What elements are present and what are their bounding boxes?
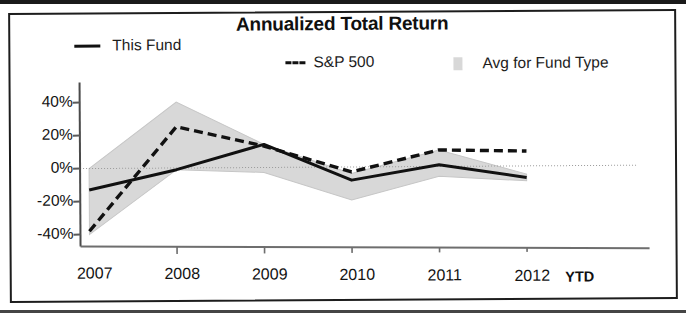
gray-square-swatch-icon bbox=[453, 57, 462, 70]
scan-artifact-bottom-rule bbox=[0, 310, 686, 313]
x-axis-tick-label: 2010 bbox=[339, 266, 375, 284]
x-axis-tick-label: 2007 bbox=[77, 265, 113, 283]
legend-label-this-fund: This Fund bbox=[112, 36, 181, 54]
solid-line-swatch-icon bbox=[74, 44, 100, 47]
x-axis-tick-labels: 200720082009201020112012YTD bbox=[10, 257, 678, 293]
scan-artifact-top-gap bbox=[0, 4, 686, 6]
x-axis-ytd-label: YTD bbox=[565, 268, 594, 284]
chart-plot-svg bbox=[8, 71, 677, 255]
x-axis-tick-label: 2009 bbox=[252, 265, 288, 283]
plot-area bbox=[8, 71, 677, 255]
x-axis-line bbox=[81, 243, 650, 251]
legend-item-avg-for-fund-type: Avg for Fund Type bbox=[453, 53, 608, 72]
dashed-line-swatch-icon bbox=[285, 61, 305, 64]
legend-item-this-fund: This Fund bbox=[74, 36, 181, 55]
legend-item-sp500: S&P 500 bbox=[285, 53, 374, 72]
y-axis-line bbox=[80, 83, 81, 247]
x-axis-tick-label: 2012 bbox=[514, 266, 550, 284]
x-axis-tick-label: 2011 bbox=[427, 266, 462, 284]
legend-label-avg-for-fund-type: Avg for Fund Type bbox=[482, 53, 608, 72]
chart-inner: Annualized Total Return This Fund S&P 50… bbox=[8, 9, 678, 303]
legend-label-sp500: S&P 500 bbox=[313, 53, 374, 71]
annualized-total-return-chart-panel: Annualized Total Return This Fund S&P 50… bbox=[8, 9, 678, 303]
x-axis-tick-label: 2008 bbox=[164, 265, 200, 283]
chart-title: Annualized Total Return bbox=[8, 11, 676, 37]
